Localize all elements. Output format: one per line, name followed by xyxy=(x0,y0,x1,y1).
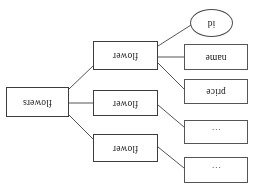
edge-attr_price-to-entity_flower_3 xyxy=(158,63,184,89)
node-entity-flowers[interactable]: flowers xyxy=(6,87,69,117)
node-attr-ellipsis-second[interactable]: ... xyxy=(184,120,248,144)
node-entity-flower-1[interactable]: flower xyxy=(93,134,158,162)
node-label: flower xyxy=(113,98,138,108)
node-attr-price[interactable]: price xyxy=(184,79,248,104)
node-label: flowers xyxy=(23,97,52,107)
edge-attr_ellipsis_top-to-entity_flower_1 xyxy=(158,147,184,168)
node-attr-id[interactable]: id xyxy=(190,9,233,37)
edge-entity_flower_1-to-entity_flowers xyxy=(69,115,93,139)
node-attr-name[interactable]: name xyxy=(184,44,248,70)
node-label: ... xyxy=(211,128,221,137)
node-label: id xyxy=(208,18,216,28)
diagram-canvas: ......pricenameidflowerflowerflowerflowe… xyxy=(0,0,257,185)
node-label: ... xyxy=(211,166,221,175)
node-label: flower xyxy=(113,51,138,61)
edge-attr_id-to-entity_flower_3 xyxy=(158,25,191,46)
node-label: flower xyxy=(113,143,138,153)
node-label: name xyxy=(206,52,227,62)
er-diagram: ......pricenameidflowerflowerflowerflowe… xyxy=(0,0,257,185)
node-label: price xyxy=(206,87,226,97)
edge-entity_flower_3-to-entity_flowers xyxy=(69,66,93,89)
edge-attr_ellipsis_second-to-entity_flower_2 xyxy=(158,105,184,127)
node-attr-ellipsis-top[interactable]: ... xyxy=(184,157,248,183)
node-entity-flower-3[interactable]: flower xyxy=(93,41,158,70)
node-entity-flower-2[interactable]: flower xyxy=(93,90,158,116)
